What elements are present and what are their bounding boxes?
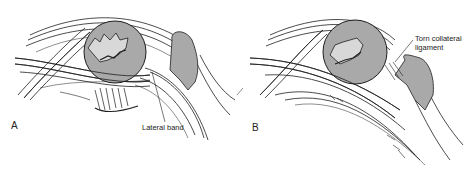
- callout-lateral-band: Lateral band: [142, 123, 184, 132]
- panel-b-illustration: [235, 0, 471, 171]
- panel-letter-b: B: [252, 122, 259, 133]
- panel-a-illustration: [0, 0, 236, 171]
- panel-letter-a: A: [11, 120, 18, 131]
- panel-b: B Torn collateral ligament: [235, 0, 471, 171]
- callout-torn-collateral-ligament-line2: ligament: [415, 43, 443, 52]
- panel-a: A Lateral band: [0, 0, 236, 171]
- callout-torn-collateral-ligament-line1: Torn collateral: [415, 34, 462, 43]
